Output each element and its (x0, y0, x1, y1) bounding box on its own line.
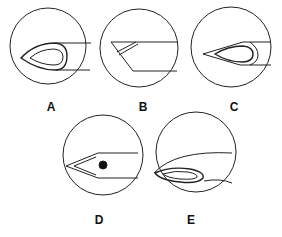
panel-b-drawing (100, 9, 178, 87)
panel-e-drawing (154, 112, 236, 192)
panel-label-d: D (89, 213, 109, 227)
panel-label-c: C (224, 100, 244, 114)
panel-a-drawing (10, 8, 91, 84)
panel-d-drawing (63, 115, 143, 195)
panel-c-drawing (191, 7, 271, 87)
side-port-dot (99, 161, 107, 169)
needle-tip-diagram (0, 0, 282, 237)
panel-label-a: A (41, 100, 61, 114)
panel-label-b: B (133, 100, 153, 114)
panel-label-e: E (181, 213, 201, 227)
